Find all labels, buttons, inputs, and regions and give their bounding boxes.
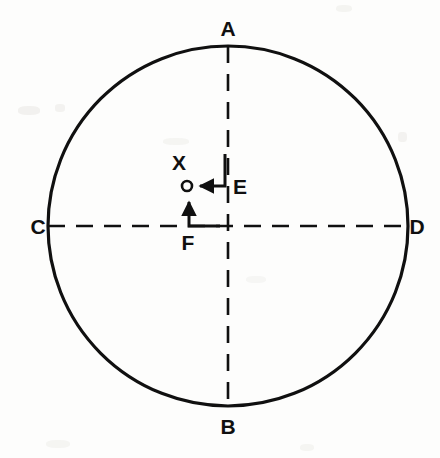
vertex-label-c: C (30, 215, 45, 238)
component-arrow-e (200, 154, 225, 186)
component-arrow-f (189, 202, 220, 226)
vertex-label-a: A (220, 17, 235, 40)
geometry-diagram: A B C D X E F (0, 0, 440, 458)
component-label-f: F (182, 231, 195, 254)
point-label-x: X (172, 151, 186, 174)
component-label-e: E (233, 175, 247, 198)
vertex-label-d: D (409, 215, 424, 238)
vertex-label-b: B (220, 415, 235, 438)
figure-container: A B C D X E F (0, 0, 440, 458)
point-x-marker (182, 181, 192, 191)
